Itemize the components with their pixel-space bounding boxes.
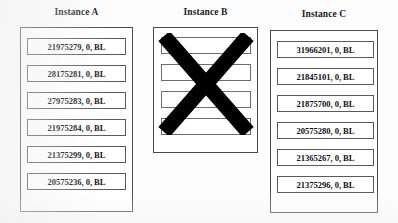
record-row[interactable]: 21845101, 0, BL (277, 68, 374, 85)
panel-instance-a: 21975279, 0, BL 28175281, 0, BL 27975283… (20, 27, 133, 212)
column-title-instance-c: Instance C (270, 9, 378, 19)
record-row[interactable] (161, 64, 251, 81)
column-title-instance-a: Instance A (20, 7, 133, 17)
record-row[interactable]: 21365267, 0, BL (277, 149, 374, 166)
record-row[interactable] (161, 91, 251, 108)
record-row[interactable]: 21975284, 0, BL (27, 119, 126, 136)
record-row[interactable] (161, 37, 251, 54)
column-title-instance-b: Instance B (153, 7, 258, 17)
panel-instance-b (153, 27, 258, 153)
record-row[interactable]: 21375296, 0, BL (277, 176, 374, 193)
record-row[interactable]: 21375299, 0, BL (27, 146, 126, 163)
panel-instance-c: 31966201, 0, BL 21845101, 0, BL 21875700… (270, 30, 378, 213)
record-row[interactable]: 28175281, 0, BL (27, 65, 126, 82)
record-row[interactable]: 31966201, 0, BL (277, 41, 374, 58)
record-row[interactable] (161, 118, 251, 135)
record-row[interactable]: 21975279, 0, BL (27, 38, 126, 55)
record-row[interactable]: 21875700, 0, BL (277, 95, 374, 112)
record-row[interactable]: 20575280, 0, BL (277, 122, 374, 139)
record-row[interactable]: 27975283, 0, BL (27, 92, 126, 109)
record-row[interactable]: 20575236, 0, BL (27, 173, 126, 190)
